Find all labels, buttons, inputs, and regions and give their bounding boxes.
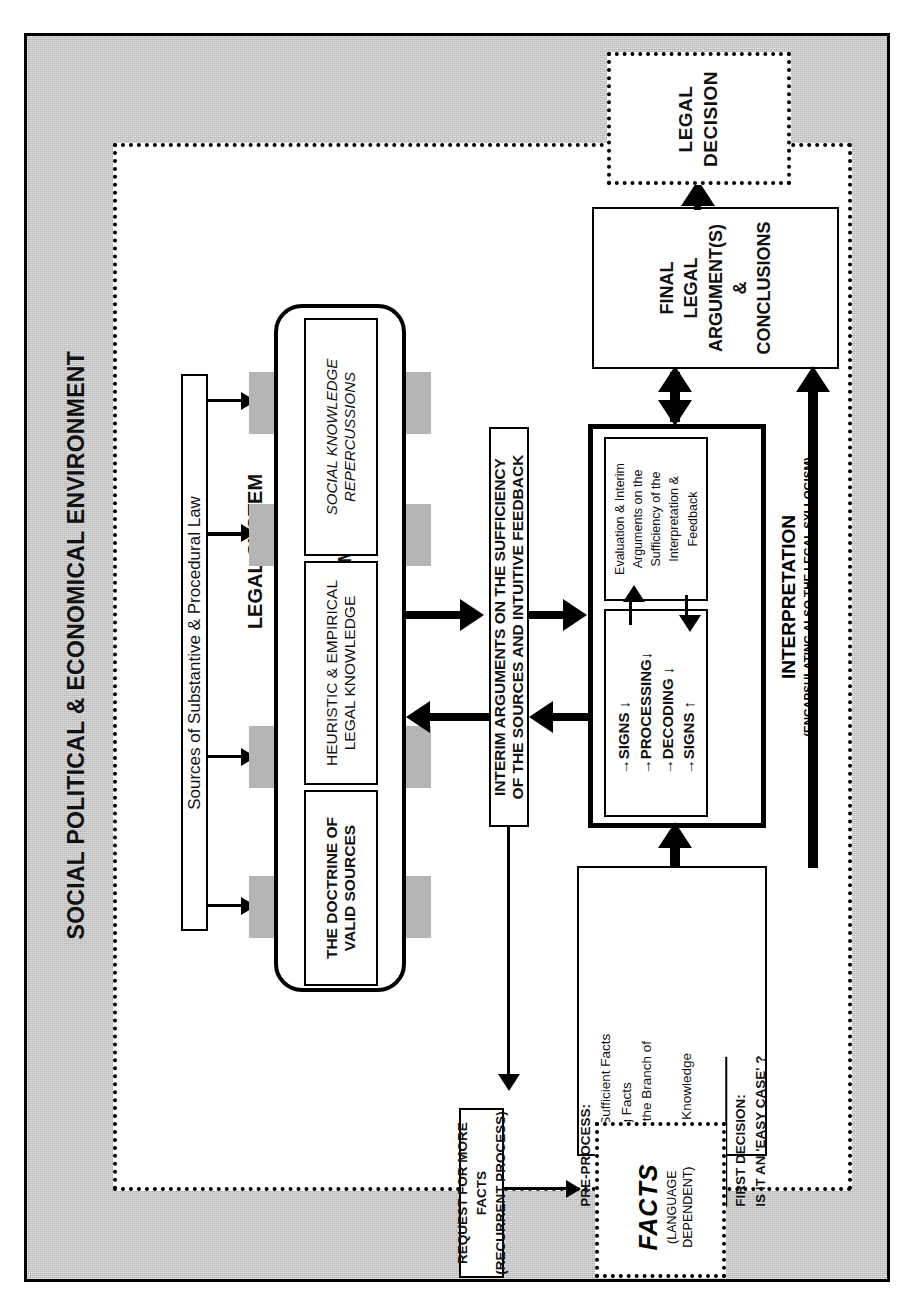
evaluation-interim-arguments-label: Evaluation & InterimArguments on theSuff… <box>611 463 702 575</box>
environment-title: SOCIAL POLITICAL & ECONOMICAL ENVIRONMEN… <box>63 420 90 940</box>
subsystem-tab-right-4 <box>403 876 431 938</box>
subsystem-tab-left-4 <box>249 876 277 938</box>
interim-arguments-box: INTERIM ARGUMENTS ON THE SUFFICIENCYOF T… <box>489 427 529 827</box>
signs-processing-decoding-box: →SIGNS ↓→PROCESSING↓→DECODING ↓→SIGNS ↑ <box>604 609 708 817</box>
diagram-canvas: SOCIAL POLITICAL & ECONOMICAL ENVIRONMEN… <box>0 0 916 1316</box>
subsystem-tab-left-3 <box>249 726 277 788</box>
interim-arguments-label: INTERIM ARGUMENTS ON THE SUFFICIENCYOF T… <box>491 455 528 800</box>
final-legal-argument-label: FINALLEGALARGUMENT(S)&CONCLUSIONS <box>655 221 776 354</box>
signs-processing-decoding-label: →SIGNS ↓→PROCESSING↓→DECODING ↓→SIGNS ↑ <box>613 652 700 775</box>
facts-content: FACTS (LANGUAGEDEPENDENT) <box>634 1128 696 1286</box>
legal-decision-label: LEGALDECISION <box>674 71 723 167</box>
subsystem-tab-right-1 <box>403 372 431 434</box>
heuristic-empirical-knowledge-box: HEURISTIC & EMPIRICALLEGAL KNOWLEDGE <box>304 561 378 785</box>
first-decision-heading: FIRST DECISION: <box>731 915 751 1207</box>
final-legal-argument-box: FINALLEGALARGUMENT(S)&CONCLUSIONS <box>592 207 839 369</box>
interpretation-title: INTERPRETATION <box>778 412 800 782</box>
legal-subsystem-container: LEGAL SUBSYSTEM THE DOCTRINE OFVALID SOU… <box>274 304 406 992</box>
pre-process-heading: PRE-PROCESS: <box>576 915 596 1207</box>
social-knowledge-repercussions-box: SOCIAL KNOWLEDGEREPERCUSSIONS <box>304 318 378 556</box>
facts-box: FACTS (LANGUAGEDEPENDENT) <box>595 1122 726 1278</box>
subsystem-tab-right-3 <box>403 726 431 788</box>
request-for-more-facts-label: REQUEST FOR MOREFACTS(RECURRENT PROCESS) <box>453 1111 510 1275</box>
interpretation-box: INTERPRETATION (ENCAPSULATING ALSO THE L… <box>588 424 766 828</box>
social-knowledge-repercussions-label: SOCIAL KNOWLEDGEREPERCUSSIONS <box>323 359 358 515</box>
legal-decision-box: LEGALDECISION <box>607 52 791 185</box>
first-decision-question: IS IT AN 'EASY CASE' ? <box>752 915 772 1207</box>
sources-of-law-label: Sources of Substantive & Procedural Law <box>184 496 204 810</box>
facts-title: FACTS <box>634 1164 662 1251</box>
sources-of-law-box: Sources of Substantive & Procedural Law <box>181 374 208 931</box>
subsystem-tab-right-2 <box>403 504 431 566</box>
doctrine-of-valid-sources-label: THE DOCTRINE OFVALID SOURCES <box>323 817 360 959</box>
subsystem-tab-left-2 <box>249 504 277 566</box>
subsystem-tab-left-1 <box>249 372 277 434</box>
heuristic-empirical-knowledge-label: HEURISTIC & EMPIRICALLEGAL KNOWLEDGE <box>323 580 360 766</box>
doctrine-of-valid-sources-box: THE DOCTRINE OFVALID SOURCES <box>304 790 378 986</box>
evaluation-interim-arguments-box: Evaluation & InterimArguments on theSuff… <box>604 437 708 601</box>
request-for-more-facts-box: REQUEST FOR MOREFACTS(RECURRENT PROCESS) <box>459 1108 504 1278</box>
facts-subtitle: (LANGUAGEDEPENDENT) <box>665 1128 696 1286</box>
pre-process-box: PRE-PROCESS: 1.Relevant & Sufficient Fac… <box>577 866 767 1156</box>
